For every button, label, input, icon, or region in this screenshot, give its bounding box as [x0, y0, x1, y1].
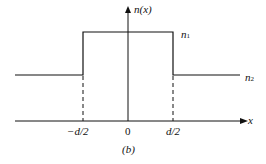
figure-caption: (b) [122, 144, 135, 155]
x-axis-label: x [248, 115, 253, 126]
x-axis-arrow-icon [240, 118, 248, 124]
n2-label: n2 [245, 72, 254, 83]
tick-d-half: d/2 [166, 126, 180, 137]
y-axis-arrow-icon [125, 6, 131, 13]
tick-minus-d-half: −d/2 [67, 126, 88, 137]
index-profile-plot [0, 0, 266, 164]
tick-zero: 0 [125, 126, 131, 137]
n1-label: n1 [181, 29, 190, 40]
y-axis-label: n(x) [134, 4, 152, 15]
